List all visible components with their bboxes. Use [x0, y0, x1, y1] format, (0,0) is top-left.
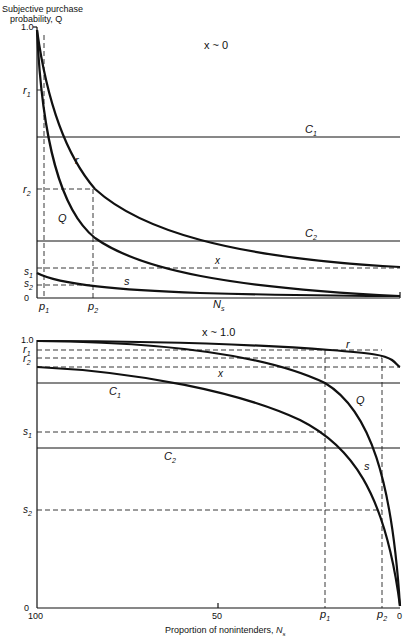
bottom-x-level-label: x [218, 369, 223, 379]
bottom-x-tick-50-label: 50 [212, 611, 222, 621]
x-axis-title: Proportion of nonintenders, Ns [165, 625, 286, 639]
bottom-p2-label: p2 [377, 609, 387, 624]
bottom-s-curve [37, 367, 400, 606]
top-ns-label: Ns [213, 299, 224, 314]
bottom-panel [37, 340, 400, 608]
top-y-tick-zero-label: 0 [24, 293, 29, 303]
bottom-q-curve-label: Q [356, 395, 365, 405]
top-r2-label: r2 [23, 184, 31, 199]
top-condition-label: x ~ 0 [204, 40, 228, 50]
bottom-condition-label: x ~ 1.0 [202, 327, 235, 337]
top-r-curve [37, 30, 400, 267]
top-q-curve-label: Q [58, 213, 67, 223]
top-r-curve-label: r [75, 155, 79, 165]
top-x-level-label: x [215, 256, 220, 266]
top-c1-label: C1 [305, 124, 317, 139]
bottom-s-curve-label: s [364, 461, 370, 471]
top-s-curve-label: s [124, 276, 130, 286]
bottom-c2-label: C2 [164, 451, 176, 466]
bottom-c1-label: C1 [109, 386, 121, 401]
bottom-p1-label: p1 [320, 609, 330, 624]
diagram-canvas [0, 0, 413, 642]
top-y-tick-one-label: 1.0 [21, 22, 34, 32]
bottom-r-curve-label: r [346, 339, 350, 349]
bottom-s1-label: s1 [23, 427, 32, 441]
top-p1-label: p1 [39, 301, 49, 316]
bottom-x-tick-100-label: 100 [28, 611, 43, 621]
top-c2-label: C2 [305, 228, 317, 243]
bottom-s2-label: s2 [23, 505, 32, 519]
bottom-q-curve [37, 341, 400, 606]
bottom-x-tick-0-label: 0 [397, 611, 402, 621]
y-axis-title-line2: probability, Q [10, 14, 62, 24]
top-s2-label: s2 [24, 279, 33, 293]
y-axis-title-line1: Subjective purchase [2, 4, 83, 14]
top-p2-label: p2 [88, 301, 98, 316]
top-r1-label: r1 [23, 85, 31, 100]
bottom-r2-label: r2 [23, 353, 31, 368]
